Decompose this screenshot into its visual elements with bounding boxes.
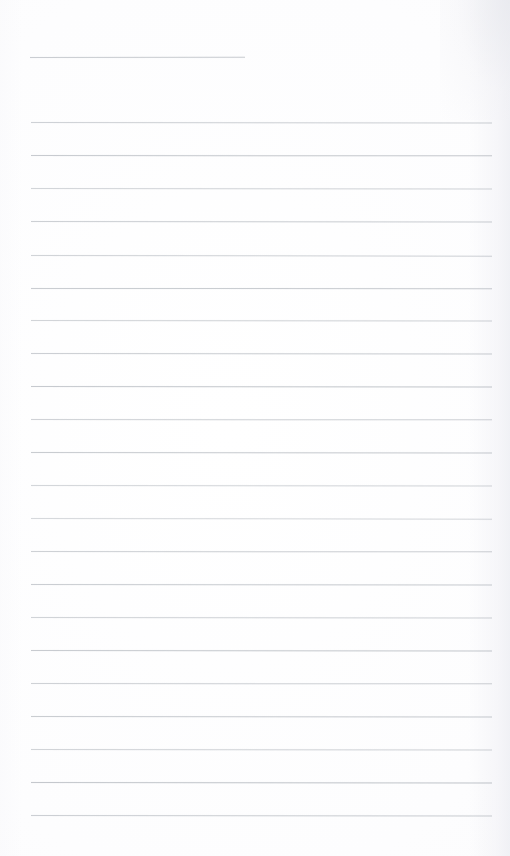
ruled-line <box>31 815 492 816</box>
ruled-line-short <box>30 57 245 58</box>
ruled-line <box>31 122 492 123</box>
ruled-lines-layer <box>0 0 510 856</box>
ruled-line <box>31 485 492 486</box>
lined-paper-page <box>0 0 510 856</box>
ruled-line <box>31 716 492 717</box>
ruled-line <box>31 419 492 420</box>
ruled-line <box>31 255 492 257</box>
ruled-line <box>31 617 492 618</box>
ruled-line <box>31 221 492 222</box>
ruled-line <box>31 288 492 289</box>
ruled-line <box>31 155 492 156</box>
ruled-line <box>31 782 492 784</box>
ruled-line <box>31 353 492 354</box>
ruled-line <box>31 386 492 388</box>
ruled-line <box>31 650 492 652</box>
ruled-line <box>31 518 492 520</box>
ruled-line <box>31 320 492 321</box>
ruled-line <box>31 584 492 585</box>
ruled-line <box>31 452 492 453</box>
ruled-line <box>31 188 492 190</box>
ruled-line <box>31 749 492 750</box>
ruled-line <box>31 683 492 684</box>
ruled-line <box>31 551 492 552</box>
